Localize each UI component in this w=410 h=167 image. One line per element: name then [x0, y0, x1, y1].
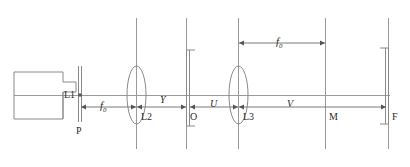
- label-segment-u: U: [210, 99, 217, 109]
- label-focal-left-sub: 0: [103, 106, 106, 113]
- label-segment-v: V: [287, 99, 293, 109]
- label-l3: L3: [243, 112, 254, 122]
- label-p: P: [76, 126, 82, 136]
- label-f: F: [392, 112, 398, 122]
- label-o: O: [190, 112, 197, 122]
- pinhole-aperture-dot: [78, 93, 82, 97]
- label-l2: L2: [141, 112, 152, 122]
- source-and-optics-svg: [0, 0, 410, 167]
- film-holder-bracket: [380, 48, 389, 124]
- dimension-segment-v: [239, 105, 386, 110]
- label-focal-right-sub: 0: [279, 42, 282, 49]
- label-focal-right: f0: [276, 36, 282, 50]
- label-focal-left: f0: [100, 100, 106, 114]
- label-m: M: [329, 112, 338, 122]
- label-l1: L1: [64, 90, 75, 100]
- label-segment-y: Y: [160, 95, 166, 105]
- optical-diagram: L1 P L2 O L3 M F f0 f0 Y U V: [0, 0, 410, 167]
- dimension-segment-y: [137, 105, 186, 110]
